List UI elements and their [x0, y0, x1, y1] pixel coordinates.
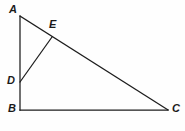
- vertex-label-b: B: [8, 103, 16, 114]
- segment-de: [20, 37, 52, 82]
- vertex-label-e: E: [49, 19, 56, 30]
- segment-ac: [20, 16, 168, 110]
- vertex-label-d: D: [7, 75, 15, 86]
- vertex-label-c: C: [172, 103, 180, 114]
- geometry-figure: A E D B C: [0, 0, 185, 131]
- vertex-label-a: A: [9, 4, 17, 15]
- geometry-canvas: [0, 0, 185, 131]
